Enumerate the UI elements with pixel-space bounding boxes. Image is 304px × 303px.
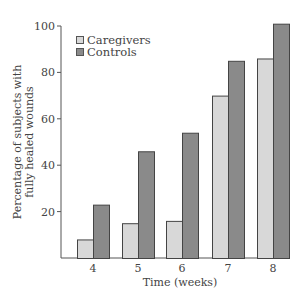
y-tick-label: 100	[34, 20, 55, 33]
bar-caregivers-week-4	[78, 240, 94, 259]
legend: Caregivers Controls	[76, 34, 151, 58]
bar-controls-week-8	[274, 24, 290, 258]
bar-caregivers-week-5	[123, 224, 139, 259]
legend-item-controls: Controls	[76, 46, 151, 58]
x-axis-label: Time (weeks)	[60, 276, 300, 289]
x-tick-label: 7	[225, 262, 232, 275]
bar-caregivers-week-8	[258, 59, 274, 259]
bar-controls-week-7	[229, 61, 245, 258]
legend-swatch-caregivers	[76, 36, 84, 44]
y-tick-label: 20	[41, 206, 55, 219]
y-tick-label: 80	[41, 66, 55, 79]
legend-swatch-controls	[76, 48, 84, 56]
bar-caregivers-week-6	[167, 221, 183, 258]
bars	[78, 24, 290, 258]
bar-controls-week-4	[94, 205, 110, 258]
legend-label-controls: Controls	[87, 46, 137, 58]
x-tick-label: 4	[90, 262, 97, 275]
bar-caregivers-week-7	[213, 96, 229, 258]
bar-controls-week-5	[139, 152, 155, 259]
y-tick-label: 40	[41, 159, 55, 172]
bar-chart: 2040608010045678	[0, 0, 304, 303]
x-tick-label: 6	[179, 262, 186, 275]
bar-controls-week-6	[183, 133, 199, 258]
x-tick-label: 8	[270, 262, 277, 275]
x-tick-label: 5	[135, 262, 142, 275]
y-tick-label: 60	[41, 113, 55, 126]
y-axis-label-line-2: fully healed wounds	[24, 65, 36, 220]
